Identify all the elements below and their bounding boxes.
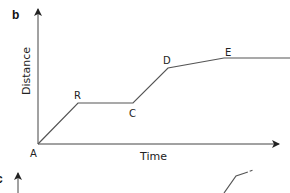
point-label-d: D — [163, 55, 171, 66]
panel-label-b: b — [12, 8, 19, 22]
panel-c: c — [0, 170, 253, 193]
panel-b: b Distance Time A R C D E — [12, 8, 290, 163]
point-label-a: A — [30, 148, 37, 159]
distance-time-diagram: b Distance Time A R C D E c — [0, 0, 290, 193]
curve-c-dashed — [245, 170, 253, 173]
panel-label-c: c — [0, 172, 3, 186]
y-axis-label: Distance — [20, 47, 33, 95]
distance-time-line — [38, 58, 290, 144]
x-axis-label: Time — [139, 150, 167, 163]
point-label-r: R — [74, 90, 81, 101]
curve-c — [224, 173, 245, 193]
point-label-c: C — [129, 108, 136, 119]
point-label-e: E — [225, 47, 231, 58]
